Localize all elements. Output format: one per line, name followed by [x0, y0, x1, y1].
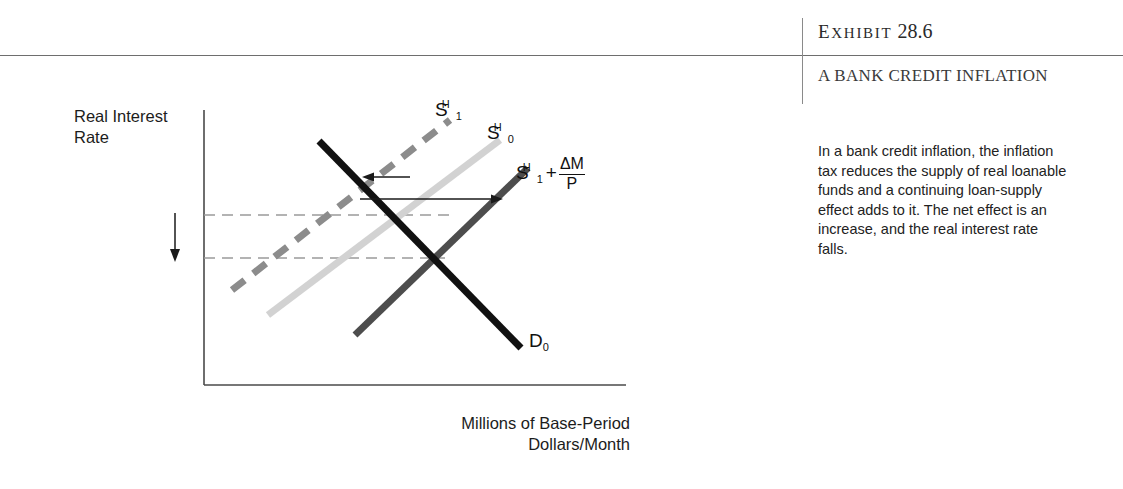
- exhibit-header: EXHIBIT28.6: [818, 20, 1118, 43]
- exhibit-caption: In a bank credit inflation, the inflatio…: [818, 142, 1068, 259]
- exhibit-number: 28.6: [897, 20, 932, 42]
- supply-curve-s1h-plus-dm-over-p: [355, 168, 528, 335]
- demand-curve-d0: [319, 141, 521, 348]
- x-axis-label: Millions of Base-PeriodDollars/Month: [330, 413, 630, 455]
- exhibit-vertical-rule: [802, 18, 803, 104]
- exhibit-label: EXHIBIT28.6: [818, 20, 1118, 43]
- exhibit-title: A BANK CREDIT INFLATION: [818, 66, 1108, 86]
- exhibit-label-e: E: [818, 21, 831, 42]
- curve-label-s1h-plus-dm-over-p: SH1+ΔMP: [516, 155, 585, 192]
- curve-label-s0h: SH0: [487, 122, 514, 144]
- y-axis-label: Real InterestRate: [74, 106, 168, 148]
- rate-fall-arrow: [170, 213, 180, 262]
- exhibit-label-rest: XHIBIT: [831, 25, 892, 41]
- curve-label-s1h: SH1: [435, 99, 462, 121]
- figure-chart: Real InterestRate Millions of Base-Perio…: [0, 0, 800, 489]
- curve-label-d0: D0: [529, 330, 549, 352]
- fraction-delta-m-over-p: ΔMP: [559, 156, 585, 193]
